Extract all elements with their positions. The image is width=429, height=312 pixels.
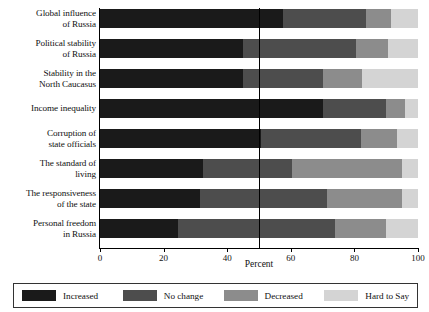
bar-segment-decreased: [356, 39, 388, 58]
x-tick: [418, 248, 419, 252]
bar-segment-increased: [100, 9, 283, 28]
legend-swatch: [22, 290, 56, 301]
bar-segment-hard-to-say: [405, 99, 418, 118]
bar-segment-increased: [100, 159, 203, 178]
bar-segment-increased: [100, 129, 261, 148]
plot-area: 020406080100: [100, 8, 418, 248]
category-label: Corruption ofstate officials: [0, 128, 96, 149]
category-label-line: The responsiveness: [0, 188, 96, 199]
category-label: The responsivenessof the state: [0, 188, 96, 209]
category-label-line: of Russia: [0, 49, 96, 60]
bar-segment-no-change: [243, 39, 356, 58]
category-label-line: Personal freedom: [0, 218, 96, 229]
legend-item-no-change[interactable]: No change: [115, 290, 216, 301]
legend-item-hard-to-say[interactable]: Hard to Say: [316, 290, 417, 301]
bar-segment-hard-to-say: [362, 69, 418, 88]
bar-segment-decreased: [335, 219, 386, 238]
stacked-bar-chart: Global influenceof RussiaPolitical stabi…: [0, 0, 429, 312]
category-label: Income inequality: [0, 103, 96, 114]
category-label-line: North Caucasus: [0, 79, 96, 90]
category-label: Global influenceof Russia: [0, 8, 96, 29]
bar-segment-hard-to-say: [402, 159, 418, 178]
x-tick: [354, 248, 355, 252]
bar-segment-no-change: [178, 219, 335, 238]
category-label: The standard ofliving: [0, 158, 96, 179]
bar-segment-no-change: [261, 129, 361, 148]
fifty-percent-reference-line: [259, 8, 260, 248]
category-label: Stability in theNorth Caucasus: [0, 68, 96, 89]
bar-segment-increased: [100, 69, 243, 88]
bar-segment-decreased: [327, 189, 402, 208]
legend-item-increased[interactable]: Increased: [14, 290, 115, 301]
bar-segment-no-change: [203, 159, 292, 178]
category-label: Political stabilityof Russia: [0, 38, 96, 59]
bar-segment-hard-to-say: [397, 129, 418, 148]
bar-segment-hard-to-say: [388, 39, 418, 58]
bar-segment-no-change: [283, 9, 366, 28]
legend-label: Hard to Say: [365, 291, 409, 301]
bar-segment-decreased: [386, 99, 405, 118]
bar-segment-increased: [100, 39, 243, 58]
category-label: Personal freedomin Russia: [0, 218, 96, 239]
bar-segment-hard-to-say: [402, 189, 418, 208]
legend-swatch: [224, 290, 258, 301]
category-label-line: living: [0, 169, 96, 180]
category-label-line: Corruption of: [0, 128, 96, 139]
bar-segment-increased: [100, 99, 323, 118]
legend-label: Increased: [63, 291, 98, 301]
x-tick: [100, 248, 101, 252]
bar-segment-hard-to-say: [391, 9, 418, 28]
legend-label: Decreased: [265, 291, 303, 301]
bar-segment-no-change: [200, 189, 327, 208]
legend-swatch: [123, 290, 157, 301]
category-label-line: of Russia: [0, 19, 96, 30]
bar-segment-decreased: [361, 129, 398, 148]
category-label-line: of the state: [0, 199, 96, 210]
bar-segment-increased: [100, 189, 200, 208]
x-tick: [227, 248, 228, 252]
category-label-line: Global influence: [0, 8, 96, 19]
category-label-line: Income inequality: [0, 103, 96, 114]
legend-label: No change: [164, 291, 204, 301]
bar-segment-no-change: [243, 69, 323, 88]
category-axis-labels: Global influenceof RussiaPolitical stabi…: [0, 8, 96, 248]
category-label-line: state officials: [0, 139, 96, 150]
x-axis-title: Percent: [100, 259, 418, 269]
bar-segment-hard-to-say: [386, 219, 418, 238]
category-label-line: The standard of: [0, 158, 96, 169]
x-tick: [291, 248, 292, 252]
bar-segment-decreased: [292, 159, 402, 178]
legend-item-decreased[interactable]: Decreased: [216, 290, 317, 301]
chart-legend: IncreasedNo changeDecreasedHard to Say: [13, 283, 418, 308]
category-label-line: Political stability: [0, 38, 96, 49]
bar-segment-increased: [100, 219, 178, 238]
plot-wrapper: Global influenceof RussiaPolitical stabi…: [0, 0, 429, 272]
category-label-line: Stability in the: [0, 68, 96, 79]
category-label-line: in Russia: [0, 229, 96, 240]
x-tick: [164, 248, 165, 252]
legend-swatch: [324, 290, 358, 301]
x-axis-line: [99, 248, 419, 249]
bar-segment-decreased: [366, 9, 391, 28]
bar-segment-decreased: [323, 69, 363, 88]
bar-segment-no-change: [323, 99, 387, 118]
